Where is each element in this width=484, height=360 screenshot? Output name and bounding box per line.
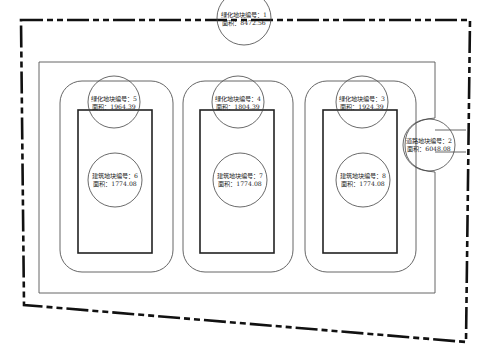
parcel-area: 面积：6048.08 (406, 145, 452, 153)
parcel-label-building-8: 建筑地块编号：8 面积：1774.08 (340, 172, 386, 188)
parcel-label-building-6: 建筑地块编号：6 面积：1774.08 (92, 172, 138, 188)
parcel-label-green-3: 绿化地块编号：3 面积：1924.39 (339, 95, 385, 111)
parcel-area: 面积：1964.39 (91, 103, 137, 111)
parcel-id: 建筑地块编号：8 (340, 172, 386, 180)
parcel-id: 道路地块编号：2 (406, 137, 452, 145)
parcel-area: 面积：1774.08 (92, 180, 138, 188)
parcel-label-green-5: 绿化地块编号：5 面积：1964.39 (91, 95, 137, 111)
parcel-area: 面积：1774.08 (340, 180, 386, 188)
parcel-label-green-4: 绿化地块编号：4 面积：1804.39 (215, 95, 261, 111)
parcel-id: 绿化地块编号：3 (339, 95, 385, 103)
parcel-id: 绿化地块编号：1 (221, 11, 267, 19)
parcel-area: 面积：1804.39 (215, 103, 261, 111)
site-plan-diagram: 绿化地块编号：1 面积：8472.56 道路地块编号：2 面积：6048.08 … (0, 0, 484, 360)
parcel-id: 建筑地块编号：7 (217, 172, 263, 180)
parcel-area: 面积：1924.39 (339, 103, 385, 111)
parcel-id: 绿化地块编号：4 (215, 95, 261, 103)
parcel-id: 绿化地块编号：5 (91, 95, 137, 103)
parcel-label-building-7: 建筑地块编号：7 面积：1774.08 (217, 172, 263, 188)
parcel-label-road-2: 道路地块编号：2 面积：6048.08 (406, 137, 452, 153)
parcel-area: 面积：8472.56 (221, 19, 267, 27)
parcel-area: 面积：1774.08 (217, 180, 263, 188)
parcel-label-green-1: 绿化地块编号：1 面积：8472.56 (221, 11, 267, 27)
parcel-id: 建筑地块编号：6 (92, 172, 138, 180)
